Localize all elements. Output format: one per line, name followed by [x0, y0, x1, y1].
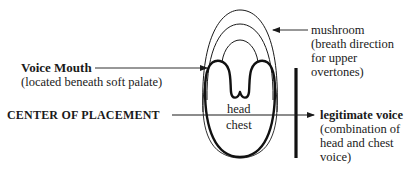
voice-mouth-note: (located beneath soft palate) — [21, 75, 162, 89]
head-label: head — [227, 102, 251, 116]
chest-label: chest — [226, 118, 252, 132]
legitimate-voice-note-line: voice) — [320, 150, 351, 164]
legitimate-voice-note-line: head and chest — [320, 136, 394, 150]
mushroom-note-line: overtones) — [311, 65, 364, 79]
center-of-placement-title: CENTER OF PLACEMENT — [7, 108, 160, 122]
legitimate-voice-title: legitimate voice — [320, 108, 403, 122]
legitimate-voice-note-line: (combination of — [320, 122, 400, 136]
mushroom-note-line: for upper — [311, 51, 357, 65]
mushroom-note-line: (breath direction — [311, 37, 394, 51]
voice-mouth-title: Voice Mouth — [21, 61, 92, 75]
mushroom-title: mushroom — [311, 23, 364, 37]
mushroom-arc-inner — [222, 40, 258, 62]
